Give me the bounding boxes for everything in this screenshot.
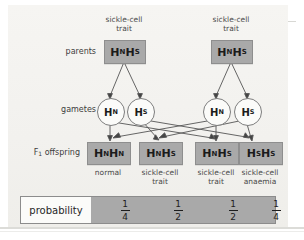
parent-2-genotype: HNHS [211,40,253,64]
offspring-3-allele-2-sub: S [227,150,232,158]
parent-1-allele-2: H [125,46,134,59]
diagram-page: parents sickle-cell trait HNHS sickle-ce… [0,0,304,240]
probability-value-4-numerator: 1 [273,199,279,209]
offspring-4-allele-2-sub: S [270,150,275,158]
gamete-2-sub: S [143,108,148,116]
offspring-label-rest: offspring [42,148,80,157]
gamete-2-allele: H [134,107,142,118]
offspring-4-genotype: HSHS [239,142,283,165]
row-label-gametes: gametes [26,105,96,114]
probability-value-1-numerator: 1 [122,199,128,209]
probability-value-3-numerator: 1 [230,199,236,209]
offspring-4-phenotype: sickle-cell anaemia [236,168,284,186]
probability-value-1-denominator: 4 [122,212,128,222]
offspring-3-allele-1: H [202,147,211,160]
offspring-1-genotype: HNHN [87,142,131,165]
offspring-2-allele-2-sub: S [171,150,176,158]
probability-value-2-numerator: 1 [175,199,181,209]
offspring-1-phenotype: normal [84,168,132,177]
offspring-3-genotype: HNHS [195,142,239,165]
offspring-2-phenotype: sickle-cell trait [136,168,184,186]
probability-value-3: 1 2 [221,199,245,222]
parent-2-allele-2-sub: S [242,48,247,56]
gamete-1-allele: H [104,107,112,118]
gamete-3-allele: H [210,107,218,118]
parent-2-caption: sickle-cell trait [199,15,263,33]
probability-bar: probability 1 4 1 2 1 2 1 4 [20,196,276,224]
probability-label: probability [21,197,91,223]
offspring-1-allele-2: H [109,147,118,160]
offspring-3-allele-2: H [217,147,226,160]
offspring-1-allele-2-sub: N [118,150,124,158]
probability-value-1: 1 4 [113,199,137,222]
gamete-2: HS [127,98,155,126]
gamete-4-allele: H [241,107,249,118]
gamete-3: HN [203,98,231,126]
row-label-offspring: F1 offspring [14,148,80,157]
gamete-3-sub: N [218,108,223,116]
fraction-bar-icon [121,210,130,211]
parent-1-caption: sickle-cell trait [92,15,156,33]
probability-value-2: 1 2 [166,199,190,222]
parent-2-allele-1: H [217,46,226,59]
offspring-3-phenotype: sickle-cell trait [192,168,240,186]
offspring-1-allele-1: H [94,147,103,160]
probability-value-2-denominator: 2 [175,212,181,222]
probability-value-3-denominator: 2 [230,212,236,222]
gamete-1-sub: N [112,108,117,116]
parent-2-allele-2: H [232,46,241,59]
gamete-4: HS [234,98,262,126]
offspring-2-allele-1: H [146,147,155,160]
gamete-4-sub: S [250,108,255,116]
probability-value-4: 1 4 [264,199,288,222]
probability-value-4-denominator: 4 [273,212,279,222]
parent-1-allele-1: H [110,46,119,59]
frame-bottom-rule-2 [0,231,304,232]
offspring-2-allele-2: H [161,147,170,160]
fraction-bar-icon [272,210,281,211]
fraction-bar-icon [229,210,238,211]
gamete-1: HN [97,98,125,126]
frame-bottom-rule [0,227,304,229]
offspring-2-genotype: HNHS [139,142,183,165]
offspring-4-allele-1: H [247,147,256,160]
offspring-4-allele-2: H [261,147,270,160]
parent-1-allele-2-sub: S [135,48,140,56]
fraction-bar-icon [174,210,183,211]
parent-1-genotype: HNHS [104,40,146,64]
row-label-parents: parents [34,47,96,56]
